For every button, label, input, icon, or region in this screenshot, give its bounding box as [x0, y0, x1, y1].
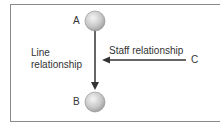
node-a-label: A [73, 15, 80, 27]
node-c-label: C [191, 54, 198, 66]
node-b-sphere [85, 92, 105, 112]
staff-relationship-arrow [102, 57, 186, 64]
node-b-label: B [73, 96, 80, 108]
node-a-sphere [85, 11, 105, 31]
line-relationship-label-1: Line [31, 47, 50, 59]
staff-relationship-label: Staff relationship [109, 45, 183, 57]
line-relationship-label-2: relationship [31, 59, 82, 71]
line-relationship-arrow [91, 30, 99, 90]
